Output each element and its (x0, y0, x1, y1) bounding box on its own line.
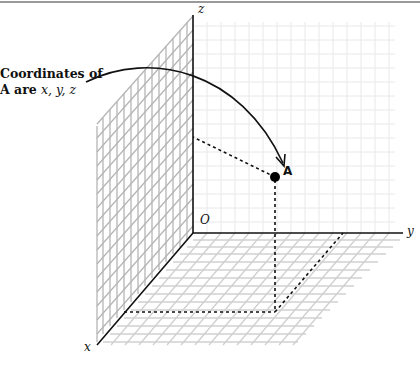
callout-line2-vars: x, y, z (41, 82, 76, 97)
yz-plane-grid (193, 22, 395, 233)
callout-text: Coordinates of A are x, y, z (0, 66, 103, 98)
xz-plane-grid (97, 16, 193, 342)
z-axis-label: z (198, 2, 204, 16)
y-axis-label: y (407, 224, 414, 238)
x-axis-label: x (84, 340, 91, 354)
point-a-label: A (283, 164, 292, 178)
coordinate-diagram (0, 0, 420, 368)
callout-line2: A are x, y, z (0, 82, 103, 98)
callout-line1: Coordinates of (0, 66, 103, 82)
point-a-dot (270, 172, 280, 182)
origin-label: O (200, 213, 210, 227)
callout-line2-prefix: A are (0, 82, 41, 97)
